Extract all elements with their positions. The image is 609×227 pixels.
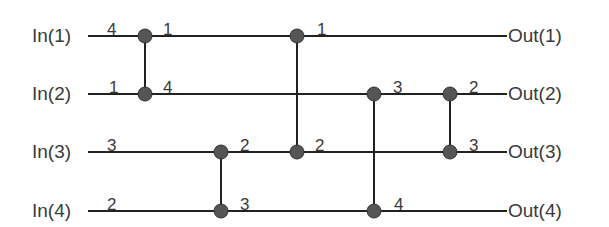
comparator-node	[214, 204, 228, 218]
comparator-node	[290, 29, 304, 43]
comparator-5	[443, 87, 457, 159]
value-c5-top: 2	[469, 78, 478, 97]
input-label-4: In(4)	[32, 200, 71, 221]
input-value-3: 3	[107, 136, 116, 155]
output-label-2: Out(2)	[508, 83, 562, 104]
output-label-4: Out(4)	[508, 200, 562, 221]
value-c1-top: 1	[163, 20, 172, 39]
value-c2-bottom: 3	[240, 195, 249, 214]
value-c2-top: 2	[240, 136, 249, 155]
sorting-network-diagram: In(1) In(2) In(3) In(4) 4 1 3 2 1 4 2 3 …	[0, 0, 609, 227]
input-label-1: In(1)	[32, 25, 71, 46]
input-value-4: 2	[107, 195, 116, 214]
comparator-1	[138, 29, 152, 101]
comparator-node	[138, 29, 152, 43]
value-c4-bottom: 4	[394, 195, 403, 214]
input-value-2: 1	[109, 78, 118, 97]
input-value-1: 4	[107, 20, 116, 39]
value-c5-bottom: 3	[469, 136, 478, 155]
comparator-node	[443, 145, 457, 159]
input-label-3: In(3)	[32, 141, 71, 162]
value-c3-bottom: 2	[315, 136, 324, 155]
output-label-1: Out(1)	[508, 25, 562, 46]
comparator-node	[138, 87, 152, 101]
output-label-3: Out(3)	[508, 141, 562, 162]
comparator-node	[367, 204, 381, 218]
value-c1-bottom: 4	[163, 78, 172, 97]
input-label-2: In(2)	[32, 83, 71, 104]
comparator-node	[443, 87, 457, 101]
comparator-node	[214, 145, 228, 159]
comparator-node	[290, 145, 304, 159]
comparator-2	[214, 145, 228, 218]
comparator-node	[367, 87, 381, 101]
value-c4-top: 3	[393, 78, 402, 97]
value-c3-top: 1	[317, 20, 326, 39]
